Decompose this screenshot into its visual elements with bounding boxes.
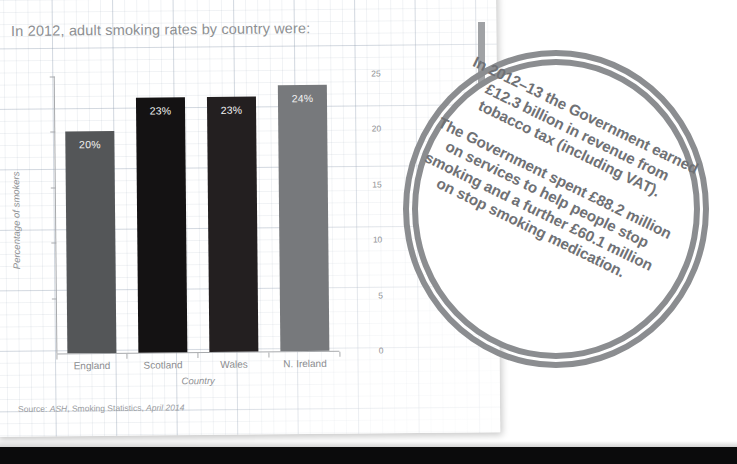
y-tick-label-15: 15 (338, 179, 382, 189)
y-tick-label-0: 0 (339, 345, 383, 355)
bar-column-england: 20% (65, 76, 117, 353)
source-prefix: Source: (18, 404, 50, 414)
y-tick-label-5: 5 (339, 290, 383, 300)
bar-value-wales: 23% (207, 104, 256, 116)
y-tick-mark-5 (52, 298, 57, 299)
bar-n-ireland: 24% (278, 85, 330, 351)
x-tick-mark-4 (339, 352, 340, 357)
x-tick-mark-0 (56, 354, 57, 359)
bar-wales: 23% (207, 97, 258, 352)
source-note: Source: ASH, Smoking Statistics, April 2… (18, 402, 184, 414)
x-tick-label-england: England (56, 360, 127, 372)
source-middle: , Smoking Statistics, (67, 403, 146, 414)
bar-scotland: 23% (136, 97, 187, 352)
y-tick-mark-25 (50, 76, 55, 77)
y-tick-mark-15 (51, 187, 56, 188)
bottom-black-band (0, 447, 737, 464)
y-axis-title: Percentage of smokers (10, 120, 23, 320)
x-tick-label-n-ireland: N. Ireland (269, 358, 340, 370)
y-tick-label-25: 25 (337, 68, 381, 78)
y-tick-label-20: 20 (337, 124, 381, 134)
x-tick-mark-2 (197, 353, 198, 358)
bar-column-wales: 23% (207, 75, 259, 352)
circular-callout: In 2012–13 the Government earned £12.3 b… (399, 44, 717, 376)
source-publisher: ASH (50, 404, 68, 414)
bar-value-england: 20% (65, 138, 114, 150)
bar-column-n-ireland: 24% (278, 74, 330, 351)
bar-value-n-ireland: 24% (278, 92, 327, 104)
bar-column-scotland: 23% (136, 75, 188, 352)
y-axis-line (54, 76, 58, 353)
x-axis-title: Country (57, 374, 340, 388)
y-tick-mark-10 (51, 243, 56, 244)
source-date: April 2014 (146, 402, 184, 412)
y-tick-mark-20 (50, 132, 55, 133)
y-tick-label-10: 10 (338, 235, 382, 245)
x-tick-mark-3 (268, 352, 269, 357)
smoking-rates-bar-chart: Percentage of smokers Country 25 20 15 1… (0, 0, 384, 420)
bar-value-scotland: 23% (136, 104, 185, 116)
x-tick-label-wales: Wales (198, 358, 269, 370)
x-tick-label-scotland: Scotland (127, 359, 198, 371)
x-tick-mark-1 (126, 354, 127, 359)
bar-england: 20% (65, 131, 116, 353)
